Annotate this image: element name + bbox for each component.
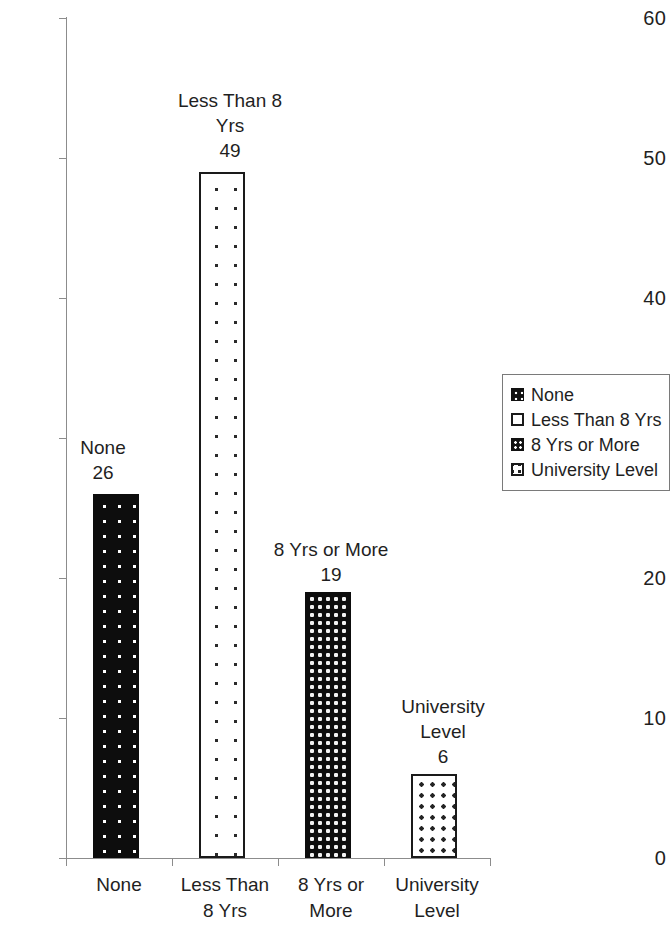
bar-less-than-8-yrs[interactable] xyxy=(199,172,245,858)
bar-8-yrs-or-more[interactable] xyxy=(305,592,351,858)
y-axis-tick-label: 0 xyxy=(620,848,666,868)
x-axis-label-none: None xyxy=(66,872,172,898)
legend-label: Less Than 8 Yrs xyxy=(531,410,661,430)
legend-item-none[interactable]: None xyxy=(511,382,661,407)
legend-label: 8 Yrs or More xyxy=(531,435,640,455)
x-axis-tick xyxy=(490,858,491,866)
legend-swatch-icon xyxy=(511,438,524,451)
y-axis-tick-label: 10 xyxy=(620,708,666,728)
y-axis-tick-label: 60 xyxy=(620,8,666,28)
x-axis-label-8-yrs-or-more: 8 Yrs or More xyxy=(278,872,384,924)
legend: None Less Than 8 Yrs 8 Yrs or More Unive… xyxy=(502,374,670,491)
legend-swatch-icon xyxy=(511,413,524,426)
x-axis-tick xyxy=(278,858,279,866)
legend-swatch-icon xyxy=(511,463,524,476)
x-axis-label-university-level: University Level xyxy=(384,872,490,924)
legend-item-university-level[interactable]: University Level xyxy=(511,457,661,482)
bar-none[interactable] xyxy=(93,494,139,858)
bar-data-label-8-yrs-or-more: 8 Yrs or More 19 xyxy=(251,537,411,587)
legend-label: None xyxy=(531,385,574,405)
y-axis-tick-label: 20 xyxy=(620,568,666,588)
x-axis-tick xyxy=(384,858,385,866)
y-axis-tick-label: 50 xyxy=(620,148,666,168)
legend-label: University Level xyxy=(531,460,658,480)
x-axis-tick xyxy=(172,858,173,866)
x-axis-label-less-than-8-yrs: Less Than 8 Yrs xyxy=(172,872,278,924)
x-axis-tick xyxy=(66,858,67,866)
bar-data-label-less-than-8-yrs: Less Than 8 Yrs 49 xyxy=(155,88,305,163)
legend-item-8-yrs-or-more[interactable]: 8 Yrs or More xyxy=(511,432,661,457)
bar-data-label-university-level: University Level 6 xyxy=(373,694,513,769)
y-axis-tick-label: 40 xyxy=(620,288,666,308)
legend-swatch-icon xyxy=(511,388,524,401)
legend-item-less-than-8-yrs[interactable]: Less Than 8 Yrs xyxy=(511,407,661,432)
bar-data-label-none: None 26 xyxy=(33,435,173,485)
bar-university-level[interactable] xyxy=(411,774,457,858)
